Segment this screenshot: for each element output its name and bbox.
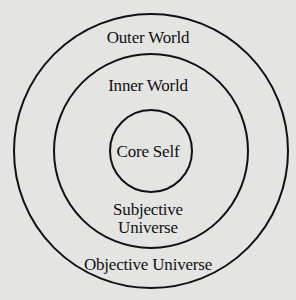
objective-universe-label: Objective Universe bbox=[0, 256, 296, 274]
core-self-label: Core Self bbox=[0, 143, 296, 161]
universe-label: Universe bbox=[0, 219, 296, 237]
inner-world-label: Inner World bbox=[0, 77, 296, 95]
outer-world-label: Outer World bbox=[0, 29, 296, 47]
subjective-label: Subjective bbox=[0, 201, 296, 219]
concentric-diagram: Outer World Inner World Core Self Subjec… bbox=[0, 0, 296, 300]
